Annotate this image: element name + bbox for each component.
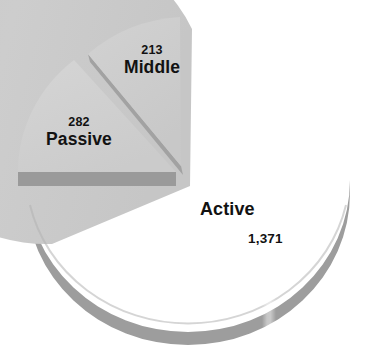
pie-chart-canvas: [0, 0, 368, 360]
pie-slice-passive-depth: [18, 172, 176, 186]
pie-chart: 213 Middle 282 Passive Active 1,371: [0, 0, 368, 360]
